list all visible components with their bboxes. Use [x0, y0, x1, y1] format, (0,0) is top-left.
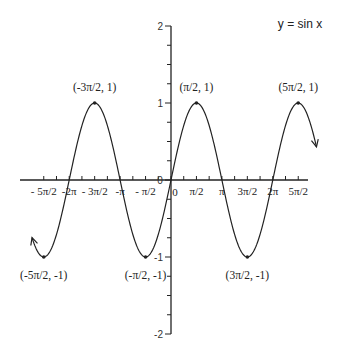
y-tick-label: -2: [154, 329, 163, 340]
point-label: (3π/2, -1): [226, 269, 270, 282]
y-tick-label: 2: [157, 21, 163, 32]
axes: [20, 26, 308, 334]
x-tick-label: -π: [115, 185, 125, 197]
x-tick-label: 2π: [267, 185, 279, 197]
y-tick-label: 0: [157, 175, 163, 186]
x-tick-label: 5π/2: [288, 185, 308, 197]
extremum-point: [296, 101, 300, 105]
extremum-point: [195, 101, 199, 105]
x-tick-label: 3π/2: [238, 185, 258, 197]
point-label: (-5π/2, -1): [20, 269, 67, 282]
x-tick-label: π/2: [189, 185, 203, 197]
x-tick-label: - π/2: [135, 185, 156, 197]
point-label: (5π/2, 1): [278, 81, 318, 94]
sine-chart: 210-1-2- 5π/2-2π- 3π/2-π- π/20π/2π3π/22π…: [0, 0, 340, 353]
y-tick-label: 1: [157, 98, 163, 109]
extremum-point: [246, 255, 250, 259]
point-label: (-π/2, -1): [125, 269, 167, 282]
y-tick-label: -1: [154, 252, 163, 263]
chart-title: y = sin x: [278, 17, 322, 31]
x-tick-label: -2π: [62, 185, 77, 197]
point-label: (π/2, 1): [179, 81, 213, 94]
x-tick-label: - 5π/2: [31, 185, 57, 197]
x-tick-label: - 3π/2: [82, 185, 108, 197]
x-tick-label: 0: [172, 186, 178, 198]
extremum-point: [93, 101, 97, 105]
extremum-point: [144, 255, 148, 259]
point-label: (-3π/2, 1): [73, 81, 117, 94]
extremum-point: [42, 255, 46, 259]
x-tick-label: π: [219, 185, 225, 197]
